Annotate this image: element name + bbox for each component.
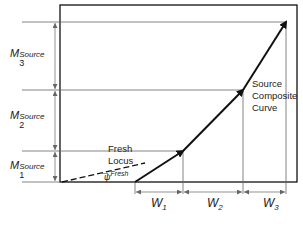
label-w1: W1 (151, 197, 167, 209)
label-m2-source: MSource2 (10, 110, 45, 129)
label-w3: W3 (263, 197, 279, 209)
label-m1-source: MSource1 (10, 160, 45, 179)
label-psi-fresh: ψFresh (104, 170, 128, 182)
composite-segment-1 (135, 151, 183, 182)
label-source-composite-curve: Source Composite Curve (252, 78, 297, 114)
label-w2: W2 (207, 197, 223, 209)
label-m3-source: MSource3 (10, 48, 45, 67)
composite-segment-2 (183, 90, 243, 151)
label-fresh-locus: Fresh Locus (108, 143, 133, 167)
